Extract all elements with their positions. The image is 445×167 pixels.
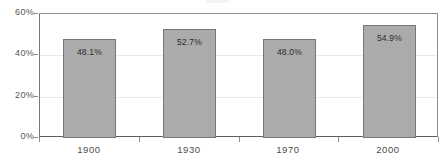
x-axis-category-label: 1900 [49, 144, 129, 155]
bar: 48.1% [63, 39, 116, 138]
x-axis-tick [338, 137, 339, 142]
y-axis-tick [33, 13, 38, 14]
bar-value-label: 54.9% [364, 33, 415, 43]
y-axis-tick [33, 137, 38, 138]
bar-value-label: 48.1% [64, 47, 115, 57]
plot-area: 48.1%52.7%48.0%54.9% [39, 13, 438, 137]
bar: 54.9% [363, 25, 416, 138]
bar-value-label: 48.0% [264, 47, 315, 57]
x-axis-tick [438, 137, 439, 142]
y-axis-tick-label: 60% [0, 7, 34, 17]
bar: 48.0% [263, 39, 316, 138]
bar: 52.7% [163, 29, 216, 138]
x-axis-category-label: 1930 [149, 144, 229, 155]
bar-chart: 0%20%40%60% 48.1%52.7%48.0%54.9% 1900193… [0, 0, 445, 167]
y-axis-tick [33, 54, 38, 55]
x-axis-tick [39, 137, 40, 142]
x-axis-category-label: 1970 [248, 144, 328, 155]
bar-value-label: 52.7% [164, 37, 215, 47]
y-axis-tick-label: 0% [0, 131, 34, 141]
cropped-title-sliver [206, 0, 228, 3]
y-axis-tick-label: 20% [0, 90, 34, 100]
x-axis-tick [139, 137, 140, 142]
x-axis-tick [239, 137, 240, 142]
y-axis-tick [33, 96, 38, 97]
y-axis-tick-label: 40% [0, 48, 34, 58]
x-axis-category-label: 2000 [348, 144, 428, 155]
